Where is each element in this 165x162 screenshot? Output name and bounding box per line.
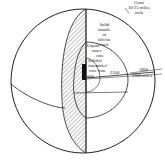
- inner-core-shaded: [82, 64, 86, 80]
- earth-cross-section-diagram: [0, 0, 165, 162]
- latitude-curve: [11, 84, 65, 108]
- mantle-measure: 1800: [139, 67, 148, 72]
- crust-label: Crust 10-25 miles rock: [128, 0, 150, 15]
- outer-core-measure: 2100: [110, 70, 119, 75]
- inner-core-measure: 800: [87, 74, 94, 79]
- inner-core-label: Solid inner core: [88, 58, 98, 73]
- radius-measure: 3900 miles: [132, 73, 152, 78]
